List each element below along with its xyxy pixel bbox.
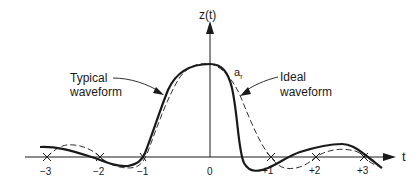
tick-label-neg2: −2 [93,166,105,177]
typical-waveform-label-line1: Typical [70,71,107,85]
tick-label-pos2: +2 [309,165,321,176]
y-axis-arrow-icon [206,21,214,34]
typical-arrow-icon [153,87,164,95]
typical-waveform-label-line2: waveform [69,85,122,99]
tick-labels: −3 −2 −1 0 +1 +2 +3 [40,165,369,177]
waveform-diagram: t z(t) −3 −2 −1 0 +1 +2 +3 Typical wavef… [0,0,420,188]
x-axis-label: t [402,149,406,164]
tick-label-pos3: +3 [357,165,369,176]
tick-label-neg1: −1 [137,166,149,177]
peak-label-sub: r [240,73,243,80]
peak-label: ar [234,66,243,80]
ideal-waveform-label-line1: Ideal [280,70,306,84]
y-axis-label: z(t) [199,8,216,22]
x-axis-arrow-icon [383,153,396,161]
tick-label-0: 0 [207,166,213,177]
tick-label-neg3: −3 [40,166,52,177]
ideal-waveform-label-line2: waveform [279,85,332,99]
